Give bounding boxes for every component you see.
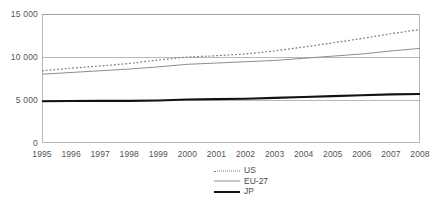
x-tick-label: 2004 — [289, 149, 319, 159]
legend-key-bold-solid-icon — [214, 187, 240, 196]
y-tick-label: 0 — [0, 138, 38, 148]
x-tick-label: 1998 — [114, 149, 144, 159]
x-tick-label: 2006 — [347, 149, 377, 159]
y-tick-label: 5 000 — [0, 95, 38, 105]
x-tick-label: 1999 — [143, 149, 173, 159]
gridlines — [42, 15, 420, 144]
x-tick-label: 1995 — [27, 149, 57, 159]
legend-item-eu-27: EU-27 — [214, 177, 334, 187]
plot-frame — [43, 15, 420, 143]
chart-legend: US EU-27 JP — [214, 166, 334, 198]
y-tick-label: 15 000 — [0, 9, 38, 19]
legend-item-jp: JP — [214, 187, 334, 197]
legend-key-dotted-icon — [214, 166, 240, 175]
x-tick-label: 2007 — [376, 149, 406, 159]
legend-item-us: US — [214, 166, 334, 176]
x-tick-label: 1997 — [85, 149, 115, 159]
footnote-text — [2, 205, 432, 213]
x-tick-label: 2002 — [231, 149, 261, 159]
x-tick-label: 1996 — [56, 149, 86, 159]
x-tick-label: 2005 — [318, 149, 348, 159]
chart-canvas — [42, 14, 420, 143]
y-tick-label: 10 000 — [0, 52, 38, 62]
x-tick-label: 2008 — [405, 149, 434, 159]
x-tick-label: 2000 — [172, 149, 202, 159]
chart-figure: 05 00010 00015 000 199519961997199819992… — [0, 0, 434, 213]
data-series-layer — [42, 29, 420, 101]
legend-label-jp: JP — [244, 187, 254, 196]
x-tick-label: 2001 — [201, 149, 231, 159]
legend-label-eu-27: EU-27 — [244, 177, 268, 186]
plot-area — [42, 14, 420, 143]
plot-border — [43, 15, 420, 143]
x-tick-label: 2003 — [260, 149, 290, 159]
legend-key-solid-icon — [214, 177, 240, 186]
series-line-eu-27 — [42, 48, 420, 74]
legend-label-us: US — [244, 166, 256, 175]
series-line-us — [42, 29, 420, 70]
